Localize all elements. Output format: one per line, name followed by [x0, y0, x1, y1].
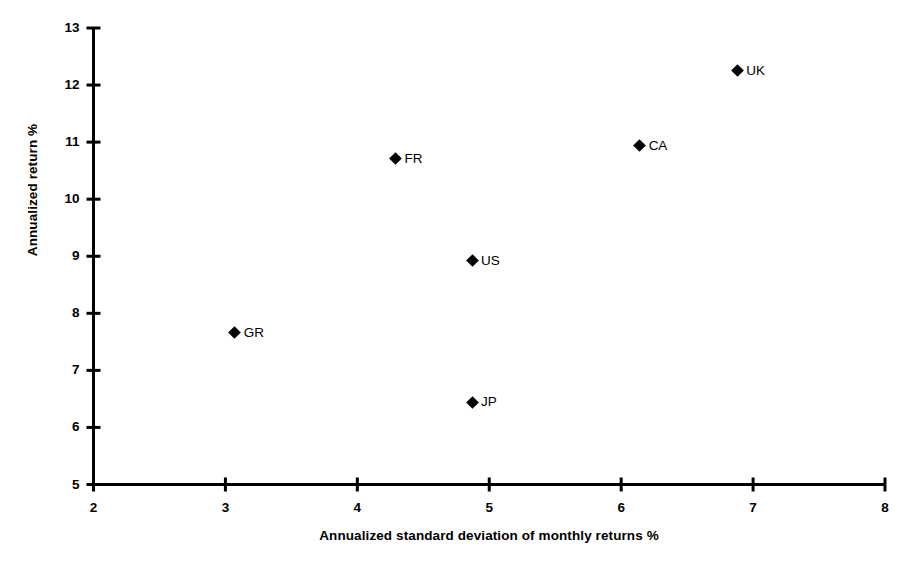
y-axis-tick-label: 8	[40, 306, 80, 320]
y-axis-tick-label: 13	[40, 21, 80, 35]
data-point-label: US	[481, 254, 500, 268]
x-axis-tick-label: 5	[469, 501, 509, 515]
y-axis-tick-label: 12	[40, 78, 80, 92]
y-axis-tick-label: 11	[40, 135, 80, 149]
plot-axes	[0, 0, 916, 568]
y-axis-tick-label: 10	[40, 192, 80, 206]
y-axis-tick-label: 7	[40, 363, 80, 377]
x-axis-tick-label: 8	[865, 501, 905, 515]
x-axis-title: Annualized standard deviation of monthly…	[93, 528, 885, 543]
data-point-label: FR	[405, 152, 423, 166]
x-axis-tick-label: 7	[733, 501, 773, 515]
x-axis-tick-label: 2	[74, 501, 114, 515]
data-point-label: JP	[481, 395, 497, 409]
x-axis-tick-label: 4	[337, 501, 377, 515]
y-axis-title: Annualized return %	[22, 0, 44, 420]
x-axis-tick-label: 6	[601, 501, 641, 515]
y-axis-tick-label: 6	[40, 420, 80, 434]
y-axis-tick-label: 5	[40, 478, 80, 492]
y-axis-tick-label: 9	[40, 249, 80, 263]
x-axis-tick-label: 3	[205, 501, 245, 515]
data-point-label: UK	[746, 64, 765, 78]
data-point-label: GR	[244, 326, 264, 340]
data-point-label: CA	[649, 139, 668, 153]
scatter-chart: Annualized return % Annualized standard …	[0, 0, 916, 568]
